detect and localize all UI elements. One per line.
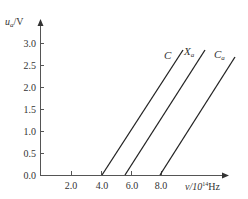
series-line-xa	[125, 50, 205, 175]
x-tick-label: 6.0	[126, 180, 139, 191]
x-tick-label: 4.0	[96, 180, 109, 191]
series-label-xa: Xa	[183, 45, 195, 59]
series-line-ca	[160, 57, 235, 175]
x-axis-label: ν/1014Hz	[185, 181, 220, 192]
y-tick-label: 0.0	[24, 170, 37, 181]
y-tick-label: 0.5	[24, 148, 37, 159]
series-line-c	[102, 50, 183, 175]
series-label-c: C	[164, 49, 172, 61]
y-tick-label: 1.0	[24, 126, 37, 137]
y-tick-label: 3.0	[24, 38, 37, 49]
y-tick-label: 2.5	[24, 60, 37, 71]
y-tick-label: 1.5	[24, 104, 37, 115]
x-ticks	[72, 171, 162, 175]
series-label-ca: Ca	[214, 48, 225, 62]
x-tick-label: 8.0	[155, 180, 168, 191]
x-tick-label: 2.0	[65, 180, 78, 191]
y-axis-label: ua/V	[5, 16, 24, 29]
chart-canvas: 0.0 0.5 1.0 1.5 2.0 2.5 3.0 2.0 4.0 6.0 …	[0, 0, 248, 199]
y-tick-label: 2.0	[24, 82, 37, 93]
